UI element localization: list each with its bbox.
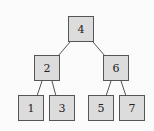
tree-node-5: 5 — [88, 95, 114, 121]
tree-node-6: 6 — [103, 55, 129, 81]
tree-node-1: 1 — [18, 95, 44, 121]
edge-2-3 — [52, 81, 56, 96]
edge-4-2 — [58, 42, 70, 56]
tree-node-4: 4 — [68, 16, 94, 42]
edge-6-5 — [106, 81, 111, 96]
node-label: 6 — [113, 62, 120, 75]
node-label: 3 — [59, 102, 66, 115]
edge-4-6 — [93, 42, 105, 56]
edge-6-7 — [121, 81, 126, 96]
node-label: 1 — [28, 102, 35, 115]
node-label: 7 — [129, 102, 136, 115]
tree-node-3: 3 — [49, 95, 75, 121]
edge-2-1 — [37, 81, 42, 96]
node-label: 4 — [78, 23, 85, 36]
tree-node-2: 2 — [34, 55, 60, 81]
tree-node-7: 7 — [119, 95, 145, 121]
node-label: 5 — [98, 102, 105, 115]
node-label: 2 — [44, 62, 51, 75]
